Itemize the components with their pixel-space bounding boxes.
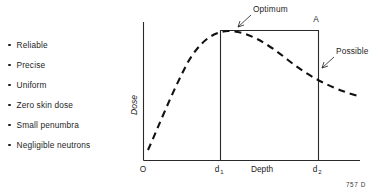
figure-code: 757 D bbox=[346, 181, 366, 188]
x-tick-d2-base: d bbox=[313, 164, 318, 174]
origin-tick-label: O bbox=[140, 164, 147, 174]
possible-label: Possible bbox=[336, 46, 369, 56]
x-tick-d2-subscript: 2 bbox=[318, 169, 322, 175]
dose-curve bbox=[148, 31, 358, 150]
x-tick-d2: d 2 bbox=[313, 164, 323, 175]
x-tick-d1: d 1 bbox=[215, 164, 225, 175]
annotation-optimum: Optimum bbox=[238, 4, 288, 27]
x-tick-d1-subscript: 1 bbox=[220, 169, 224, 175]
x-tick-d1-base: d bbox=[215, 164, 220, 174]
annotation-possible: Possible bbox=[322, 46, 369, 68]
annotation-point-a: A bbox=[313, 14, 319, 24]
point-a-label: A bbox=[313, 14, 319, 24]
optimum-region-box bbox=[221, 31, 319, 161]
y-axis-label: Dose bbox=[129, 95, 139, 115]
dose-depth-plot: Dose Depth O d 1 d 2 Optimum A Possible bbox=[0, 0, 371, 192]
optimum-label: Optimum bbox=[253, 4, 288, 14]
x-axis-label: Depth bbox=[251, 164, 274, 174]
depth-dose-figure: Reliable Precise Uniform Zero skin dose … bbox=[0, 0, 371, 192]
